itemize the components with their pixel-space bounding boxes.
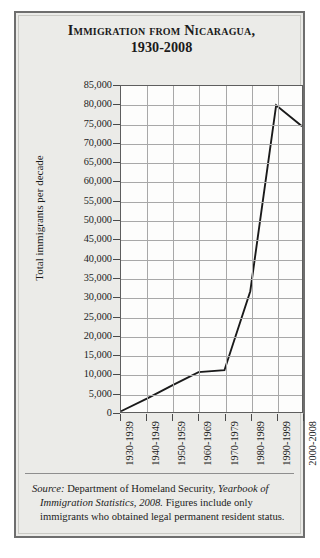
x-axis-tick-mark xyxy=(303,414,304,421)
gridline-horizontal xyxy=(121,260,302,261)
y-axis-tick-label: 35,000 xyxy=(54,273,112,283)
y-axis-tick-label: 20,000 xyxy=(54,331,112,341)
x-axis-tick-mark xyxy=(225,414,226,421)
x-axis-tick-label: 1950-1959 xyxy=(176,421,187,466)
y-axis-tick-mark xyxy=(113,394,120,395)
y-axis-tick-label: 40,000 xyxy=(54,254,112,264)
y-axis-tick-label: 15,000 xyxy=(54,350,112,360)
x-axis-tick-label: 1930-1939 xyxy=(124,421,135,466)
y-axis-tick-mark xyxy=(113,336,120,337)
y-axis-tick-mark xyxy=(113,297,120,298)
y-axis-tick-label: 30,000 xyxy=(54,292,112,302)
gridline-vertical xyxy=(173,86,174,412)
y-axis-tick-label: 0 xyxy=(54,408,112,418)
gridline-horizontal xyxy=(121,279,302,280)
source-separator xyxy=(25,473,294,474)
gridline-horizontal xyxy=(121,318,302,319)
gridline-horizontal xyxy=(121,337,302,338)
y-axis-tick-mark xyxy=(113,181,120,182)
y-axis-tick-label: 45,000 xyxy=(54,234,112,244)
gridline-horizontal xyxy=(121,202,302,203)
gridline-horizontal xyxy=(121,221,302,222)
gridline-vertical xyxy=(147,86,148,412)
gridline-horizontal xyxy=(121,105,302,106)
y-axis-tick-mark xyxy=(113,278,120,279)
y-axis-tick-mark xyxy=(113,162,120,163)
gridline-horizontal xyxy=(121,356,302,357)
chart-title-line-2: 1930-2008 xyxy=(24,39,299,56)
gridline-vertical xyxy=(252,86,253,412)
x-axis-tick-label: 1960-1969 xyxy=(202,421,213,466)
x-axis-tick-label: 1940-1949 xyxy=(150,421,161,466)
y-axis-tick-mark xyxy=(113,85,120,86)
source-text-part-1: Department of Homeland Security, xyxy=(65,483,218,494)
y-axis-tick-mark xyxy=(113,317,120,318)
data-line xyxy=(121,86,302,412)
y-axis-tick-label: 80,000 xyxy=(54,99,112,109)
chart-title: Immigration from Nicaragua, 1930-2008 xyxy=(24,22,299,56)
gridline-horizontal xyxy=(121,375,302,376)
y-axis-tick-label: 25,000 xyxy=(54,312,112,322)
y-axis-tick-mark xyxy=(113,104,120,105)
x-axis-tick-mark xyxy=(198,414,199,421)
chart-title-line-1: Immigration from Nicaragua, xyxy=(24,22,299,39)
x-axis-tick-mark xyxy=(146,414,147,421)
gridline-vertical xyxy=(278,86,279,412)
x-axis-tick-label: 1970-1979 xyxy=(229,421,240,466)
source-label: Source: xyxy=(32,483,65,494)
x-axis-tick-label: 1980-1989 xyxy=(255,421,266,466)
plot-area xyxy=(120,85,303,413)
y-axis-tick-mark xyxy=(113,124,120,125)
x-axis-tick-label: 2000-2008 xyxy=(307,421,318,466)
source-note: Source: Department of Homeland Security,… xyxy=(32,482,298,525)
x-axis-tick-mark xyxy=(277,414,278,421)
y-axis-tick-mark xyxy=(113,201,120,202)
y-axis-tick-mark xyxy=(113,259,120,260)
x-axis-tick-label: 1990-1999 xyxy=(281,421,292,466)
y-axis-tick-label: 5,000 xyxy=(54,389,112,399)
gridline-horizontal xyxy=(121,395,302,396)
gridline-horizontal xyxy=(121,163,302,164)
y-axis-tick-label: 55,000 xyxy=(54,196,112,206)
figure-panel: Immigration from Nicaragua, 1930-2008 To… xyxy=(14,11,305,538)
y-axis-tick-mark xyxy=(113,220,120,221)
y-axis-tick-label: 70,000 xyxy=(54,138,112,148)
y-axis-tick-mark xyxy=(113,239,120,240)
y-axis-tick-mark xyxy=(113,143,120,144)
x-axis-tick-mark xyxy=(172,414,173,421)
gridline-horizontal xyxy=(121,240,302,241)
y-axis-tick-label: 10,000 xyxy=(54,369,112,379)
gridline-horizontal xyxy=(121,125,302,126)
gridline-horizontal xyxy=(121,144,302,145)
gridline-vertical xyxy=(226,86,227,412)
gridline-horizontal xyxy=(121,298,302,299)
y-axis-tick-label: 50,000 xyxy=(54,215,112,225)
x-axis-tick-mark xyxy=(251,414,252,421)
y-axis-tick-mark xyxy=(113,355,120,356)
y-axis-tick-mark xyxy=(113,374,120,375)
x-axis-tick-mark xyxy=(120,414,121,421)
plot-block: Total immigrants per decade 85,00080,000… xyxy=(16,61,303,471)
y-axis-tick-label: 65,000 xyxy=(54,157,112,167)
y-axis-tick-label: 75,000 xyxy=(54,119,112,129)
y-axis-title: Total immigrants per decade xyxy=(33,118,45,318)
y-axis-tick-label: 60,000 xyxy=(54,176,112,186)
gridline-vertical xyxy=(199,86,200,412)
y-axis-tick-mark xyxy=(113,413,120,414)
y-axis-tick-labels: 85,00080,00075,00070,00065,00060,00055,0… xyxy=(54,85,112,413)
y-axis-tick-label: 85,000 xyxy=(54,80,112,90)
gridline-horizontal xyxy=(121,182,302,183)
x-axis-tick-labels: 1930-19391940-19491950-19591960-19691970… xyxy=(120,421,303,487)
